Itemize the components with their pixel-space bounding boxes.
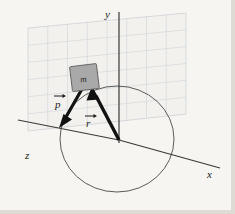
- right-edge-shadow: [231, 0, 235, 214]
- r-vector-label: r: [86, 117, 91, 129]
- p-vector-label: p: [54, 98, 61, 110]
- reference-grid-plane: [28, 13, 186, 131]
- x-axis-label: x: [206, 168, 212, 180]
- bottom-edge-shadow: [0, 210, 235, 214]
- y-axis-label: y: [104, 8, 110, 20]
- physics-diagram-figure: y x z m p r: [0, 0, 235, 214]
- mass-block: m: [70, 64, 100, 92]
- z-axis-label: z: [24, 149, 30, 161]
- diagram-canvas: y x z m p r: [0, 0, 235, 214]
